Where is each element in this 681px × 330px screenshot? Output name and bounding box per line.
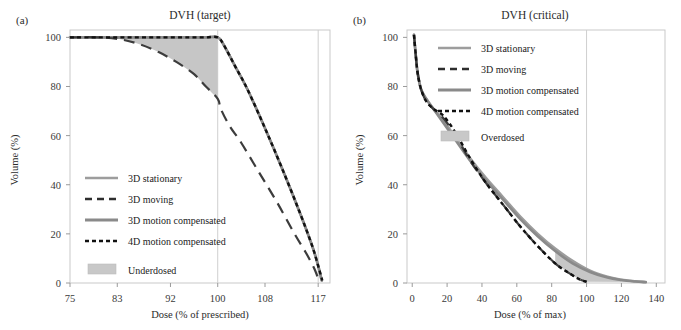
x-tick-label: 80 xyxy=(546,293,557,304)
x-tick-label: 83 xyxy=(112,293,123,304)
x-tick-label: 100 xyxy=(579,293,595,304)
panel-a-title: DVH (target) xyxy=(169,9,231,22)
shaded-region-overdosed xyxy=(555,249,646,282)
panel-b-svg: (b) DVH (critical) 020406080100120140020… xyxy=(345,0,681,330)
y-tick-label: 80 xyxy=(51,81,62,92)
x-tick-label: 60 xyxy=(512,293,523,304)
panel-a-legend: 3D stationary 3D moving 3D motion compen… xyxy=(85,173,226,276)
y-tick-label: 100 xyxy=(382,32,398,43)
legend-label-3d-moving: 3D moving xyxy=(128,194,173,205)
panel-a-tag: (a) xyxy=(16,14,29,27)
legend-label-3d-motion-compensated: 3D motion compensated xyxy=(128,215,226,226)
x-tick-label: 20 xyxy=(442,293,453,304)
x-tick-label: 117 xyxy=(310,293,325,304)
y-tick-label: 100 xyxy=(45,32,61,43)
panel-b-xlabel: Dose (% of max) xyxy=(494,309,567,321)
legend-label-3d-moving: 3D moving xyxy=(481,64,526,75)
panel-dvh-critical: (b) DVH (critical) 020406080100120140020… xyxy=(345,0,681,330)
x-tick-label: 0 xyxy=(410,293,415,304)
legend-label-3d-stationary: 3D stationary xyxy=(481,43,535,54)
legend-label-3d-motion-compensated: 3D motion compensated xyxy=(481,85,579,96)
legend-swatch-overdosed xyxy=(441,131,469,141)
plot-frame xyxy=(407,30,665,283)
legend-label-3d-stationary: 3D stationary xyxy=(128,173,182,184)
panel-a-svg: (a) DVH (target) 75839210010811702040608… xyxy=(0,0,345,330)
y-tick-label: 20 xyxy=(388,229,399,240)
x-tick-label: 40 xyxy=(477,293,488,304)
x-tick-label: 92 xyxy=(165,293,176,304)
y-tick-label: 0 xyxy=(393,278,398,289)
y-tick-label: 60 xyxy=(51,131,62,142)
panel-b-tag: (b) xyxy=(353,14,366,27)
y-tick-label: 40 xyxy=(388,180,399,191)
curve-3d-stationary xyxy=(414,35,646,282)
x-tick-label: 75 xyxy=(65,293,76,304)
dvh-figure: (a) DVH (target) 75839210010811702040608… xyxy=(0,0,681,330)
legend-label-underdosed: Underdosed xyxy=(128,265,176,276)
y-tick-label: 80 xyxy=(388,81,399,92)
x-tick-label: 120 xyxy=(614,293,630,304)
y-tick-label: 40 xyxy=(51,180,62,191)
panel-a-ylabel: Volume (%) xyxy=(9,134,21,185)
curve-3d-motion-compensated xyxy=(414,35,646,282)
x-tick-label: 100 xyxy=(210,293,226,304)
panel-b-title: DVH (critical) xyxy=(501,9,569,22)
panel-b-ylabel: Volume (%) xyxy=(354,134,366,185)
x-tick-label: 140 xyxy=(648,293,664,304)
legend-label-overdosed: Overdosed xyxy=(481,132,524,143)
y-tick-label: 20 xyxy=(51,229,62,240)
y-tick-label: 0 xyxy=(56,278,61,289)
panel-b-legend: 3D stationary 3D moving 3D motion compen… xyxy=(438,43,579,143)
y-tick-label: 60 xyxy=(388,131,399,142)
x-tick-label: 108 xyxy=(257,293,273,304)
legend-label-4d-motion-compensated: 4D motion compensated xyxy=(481,106,579,117)
legend-swatch-underdosed xyxy=(88,264,116,274)
panel-dvh-target: (a) DVH (target) 75839210010811702040608… xyxy=(0,0,345,330)
panel-a-plot-area: 758392100108117020406080100 xyxy=(45,30,330,304)
panel-a-xlabel: Dose (% of prescribed) xyxy=(151,309,249,321)
legend-label-4d-motion-compensated: 4D motion compensated xyxy=(128,236,226,247)
